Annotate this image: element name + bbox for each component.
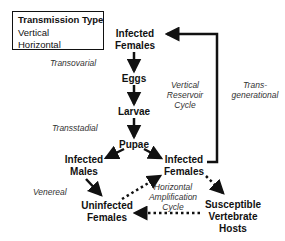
arrow-males-to-uninfected	[86, 179, 101, 195]
node-line: Females	[113, 40, 157, 52]
arrow-infected-to-hosts	[206, 176, 223, 193]
node-infected-males: Infected Males	[62, 154, 106, 178]
legend-box: Transmission Type Vertical Horizontal	[12, 11, 104, 50]
node-larvae: Larvae	[114, 106, 154, 118]
label-vertical-reservoir-cycle: Vertical Reservoir Cycle	[160, 80, 210, 110]
label-transstadial: Transstadial	[52, 123, 98, 133]
node-line: Vertebrate	[201, 211, 265, 223]
node-uninfected-females: Uninfected Females	[78, 200, 136, 224]
node-line: Susceptible	[201, 199, 265, 211]
node-line: Females	[162, 166, 206, 178]
node-susceptible-hosts: Susceptible Vertebrate Hosts	[201, 199, 265, 235]
label-transgenerational: Trans- generational	[226, 80, 284, 100]
label-line: Horizontal	[145, 182, 201, 192]
label-line: generational	[226, 90, 284, 100]
label-line: Cycle	[160, 100, 210, 110]
label-line: Cycle	[145, 202, 201, 212]
label-venereal: Venereal	[33, 187, 67, 197]
label-horizontal-amplification-cycle: Horizontal Amplification Cycle	[145, 182, 201, 212]
node-line: Infected	[62, 154, 106, 166]
label-line: Vertical	[160, 80, 210, 90]
legend-vertical-label: Vertical	[18, 27, 49, 38]
legend-horizontal-label: Horizontal	[18, 39, 61, 50]
node-eggs: Eggs	[114, 73, 154, 85]
label-line: Amplification	[145, 192, 201, 202]
label-line: Trans-	[226, 80, 284, 90]
node-line: Uninfected	[78, 200, 136, 212]
label-line: Reservoir	[160, 90, 210, 100]
node-infected-females-top: Infected Females	[113, 28, 157, 52]
node-line: Infected	[113, 28, 157, 40]
node-pupae: Pupae	[114, 139, 154, 151]
node-line: Hosts	[201, 223, 265, 235]
node-line: Females	[78, 212, 136, 224]
label-transovarial: Transovarial	[50, 58, 96, 68]
node-line: Males	[62, 166, 106, 178]
legend-title: Transmission Type	[18, 14, 103, 25]
node-infected-females-mid: Infected Females	[162, 154, 206, 178]
node-line: Infected	[162, 154, 206, 166]
